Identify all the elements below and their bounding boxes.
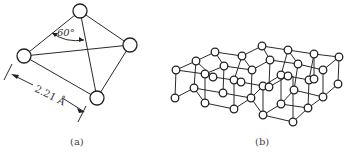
bond xyxy=(80,11,97,98)
panel-a-tetrahedron: 60° 2.21 Å (a) xyxy=(4,4,137,147)
atom xyxy=(211,48,219,56)
bond xyxy=(97,45,130,98)
arrowhead-icon xyxy=(11,74,19,79)
atom xyxy=(238,52,246,60)
atom xyxy=(17,49,31,63)
atom xyxy=(201,70,209,78)
caption-b: (b) xyxy=(255,136,269,147)
atom xyxy=(123,38,137,52)
bond xyxy=(24,45,130,56)
atom xyxy=(219,89,227,97)
atom xyxy=(290,86,298,94)
atom xyxy=(319,66,327,74)
arrowhead-icon xyxy=(79,37,84,42)
atom xyxy=(192,57,200,65)
atom xyxy=(284,46,292,54)
atom xyxy=(319,93,327,101)
atom xyxy=(201,99,209,107)
atom xyxy=(172,66,180,74)
atom xyxy=(277,71,285,79)
figure-canvas: 60° 2.21 Å (a) xyxy=(0,0,344,154)
atom xyxy=(310,50,318,58)
atom xyxy=(209,73,217,81)
atom xyxy=(73,4,87,18)
atom xyxy=(247,94,255,102)
atom xyxy=(258,42,266,50)
atom xyxy=(266,56,274,64)
atom xyxy=(265,83,273,91)
atom xyxy=(277,100,285,108)
panel-b-lattice: (b) xyxy=(171,42,343,147)
atom xyxy=(304,104,312,112)
bond xyxy=(263,84,338,122)
bond xyxy=(205,98,251,109)
dimension-line xyxy=(64,99,83,111)
atom xyxy=(259,111,267,119)
atom xyxy=(248,66,256,74)
caption-a: (a) xyxy=(70,136,84,147)
atom xyxy=(334,80,342,88)
atom xyxy=(230,105,238,113)
bond xyxy=(80,11,130,45)
extension-line xyxy=(4,64,12,80)
angle-label: 60° xyxy=(57,27,75,38)
atom xyxy=(90,91,104,105)
atom xyxy=(171,94,179,102)
atom xyxy=(310,75,318,83)
atom xyxy=(190,84,198,92)
atom xyxy=(220,62,228,70)
atom xyxy=(294,60,302,68)
atom xyxy=(289,118,297,126)
distance-label: 2.21 Å xyxy=(33,83,68,108)
atom xyxy=(284,72,292,80)
atom xyxy=(335,53,343,61)
atom xyxy=(237,78,245,86)
